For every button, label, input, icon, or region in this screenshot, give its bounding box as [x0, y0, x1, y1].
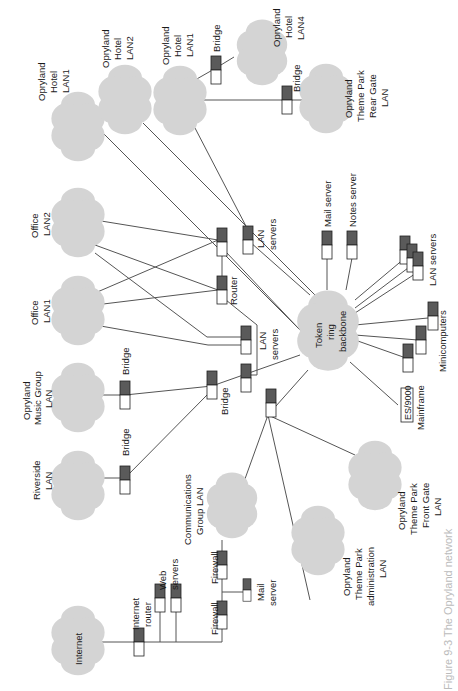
- cloud-music: [51, 363, 104, 432]
- label-hotel2-2: Hotel: [112, 38, 123, 60]
- device-minicomputer-2: [416, 326, 426, 354]
- label-office2-1: Office: [29, 213, 40, 238]
- label-minicomputers: Minicomputers: [437, 310, 448, 372]
- label-router: Router: [228, 276, 239, 305]
- label-office1-2: LAN1: [41, 299, 52, 323]
- label-admin-1: Opryland: [341, 557, 352, 596]
- label-comms-1: Communications: [182, 474, 193, 545]
- label-internet-router-1: Internet: [130, 597, 141, 630]
- cloud-front-gate: [348, 441, 401, 510]
- label-rear-2: Theme Park: [355, 70, 366, 122]
- device-bridge-hotel: [211, 56, 221, 84]
- label-hub-3: backbone: [337, 311, 348, 352]
- cloud-hotel-lan1-b: [153, 66, 206, 135]
- device-mail-server: [322, 231, 332, 259]
- cloud-hotel-lan1-a: [51, 92, 104, 161]
- label-hotel1a-2: Hotel: [48, 71, 59, 93]
- label-office1-1: Office: [29, 300, 40, 325]
- cloud-admin: [291, 506, 344, 575]
- label-hotel4-1: Opryland: [271, 8, 282, 47]
- label-admin-2: Theme Park: [353, 548, 364, 600]
- label-admin-4: LAN: [377, 559, 388, 578]
- label-music-1: Opryland: [21, 381, 32, 420]
- label-front-4: LAN: [432, 497, 443, 516]
- device-router-upper: [217, 228, 227, 256]
- device-internet-router: [134, 628, 144, 656]
- cloud-office2: [51, 188, 104, 257]
- label-bridge-rear: Bridge: [291, 65, 302, 92]
- label-bridge-riverside: Bridge: [120, 429, 131, 456]
- label-hotel2-1: Opryland: [100, 29, 111, 68]
- device-bridge-main: [207, 371, 217, 399]
- device-hub-switch: [266, 389, 276, 417]
- figure-caption: Figure 9-3 The Opryland network: [442, 528, 454, 690]
- label-lan-mid-1: LAN: [257, 331, 268, 350]
- label-admin-3: administration: [365, 547, 376, 606]
- label-music-3: LAN: [43, 389, 54, 408]
- device-lan-server-right-3: [413, 252, 423, 280]
- label-riverside-1: Riverside: [31, 460, 42, 500]
- label-hotel4-3: LAN4: [295, 16, 306, 40]
- label-hotel1b-2: Hotel: [172, 35, 183, 57]
- label-hub-1: Token: [313, 323, 324, 348]
- label-firewall-1: Firewall: [209, 602, 220, 635]
- cloud-riverside: [51, 451, 104, 520]
- label-web-1: Web: [157, 571, 168, 590]
- label-music-2: Music Group: [32, 371, 43, 425]
- label-web-2: servers: [169, 559, 180, 590]
- cloud-comms: [207, 473, 257, 539]
- label-comms-2: Group LAN: [194, 487, 205, 535]
- device-mail-server-fw: [243, 579, 251, 601]
- label-hotel1b-3: LAN1: [184, 33, 195, 57]
- device-router: [217, 276, 227, 304]
- label-front-3: Front Gate: [420, 483, 431, 528]
- label-hub-2: ring: [325, 324, 336, 340]
- label-bridge-music: Bridge: [120, 348, 131, 375]
- label-bridge-hotel: Bridge: [211, 25, 222, 52]
- device-bridge-riverside: [120, 466, 130, 494]
- label-lan-right: LAN servers: [427, 233, 438, 286]
- device-lan-server-mid-1: [241, 326, 251, 354]
- label-mainframe: Mainframe: [415, 385, 426, 430]
- device-lan-server-mid-2: [241, 364, 251, 392]
- label-hotel2-3: LAN2: [124, 36, 135, 60]
- label-mail-fw-1: Mail: [255, 584, 266, 601]
- label-mail-fw-2: server: [267, 580, 278, 606]
- label-notes-server: Notes server: [347, 173, 358, 227]
- label-hotel1a-1: Opryland: [36, 62, 47, 101]
- cloud-office1: [51, 276, 104, 345]
- label-office2-2: LAN2: [41, 212, 52, 236]
- label-rear-4: LAN: [379, 88, 390, 107]
- label-hotel1a-3: LAN1: [60, 69, 71, 93]
- label-firewall-2: Firewall: [209, 551, 220, 584]
- label-bridge-main: Bridge: [219, 388, 230, 415]
- device-lan-server-top: [243, 226, 253, 254]
- label-mainframe-box: ES/9000: [403, 385, 413, 420]
- label-hotel4-2: Hotel: [283, 16, 294, 38]
- label-mail-server: Mail server: [322, 181, 333, 227]
- device-notes-server: [347, 231, 357, 259]
- label-lan-top-2: servers: [267, 219, 278, 250]
- label-lan-top-1: LAN: [255, 229, 266, 248]
- network-diagram: Internet Riverside LAN Opryland Music Gr…: [0, 0, 458, 691]
- label-lan-mid-2: servers: [269, 329, 280, 360]
- label-rear-3: Rear Gate: [367, 74, 378, 118]
- label-rear-1: Opryland: [343, 79, 354, 118]
- label-internet: Internet: [73, 632, 84, 665]
- label-front-2: Theme Park: [408, 483, 419, 535]
- device-bridge-music: [120, 381, 130, 409]
- label-hotel1b-1: Opryland: [160, 26, 171, 65]
- label-riverside-2: LAN: [43, 471, 54, 490]
- label-front-1: Opryland: [396, 491, 407, 530]
- device-minicomputer-3: [403, 344, 413, 372]
- label-internet-router-2: router: [142, 602, 153, 627]
